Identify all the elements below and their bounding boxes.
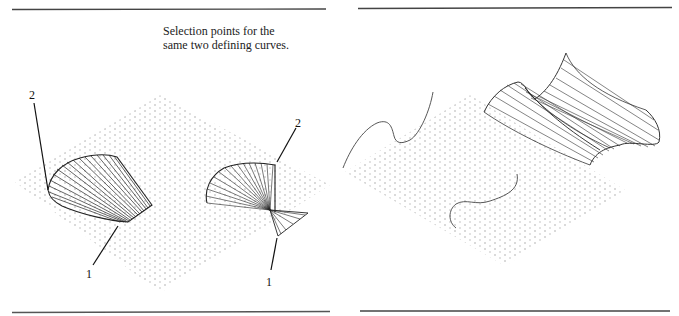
figure-canvas [0, 0, 679, 316]
caption-line-1: Selection points for the [163, 24, 289, 38]
selection-label-2-b: 2 [295, 117, 301, 129]
bottom-rule-left [12, 312, 330, 313]
caption-line-2: same two defining curves. [163, 38, 289, 52]
selection-label-1-a: 1 [86, 268, 92, 280]
leader-2-b [277, 128, 296, 162]
selection-label-1-b: 1 [266, 276, 272, 288]
leader-1-b [271, 238, 277, 270]
top-rule-right [358, 8, 672, 9]
construction-plane-grid-left [15, 95, 330, 293]
top-rule-left [12, 9, 326, 10]
selection-label-2-a: 2 [29, 89, 35, 101]
figure-caption: Selection points for the same two defini… [163, 24, 289, 52]
